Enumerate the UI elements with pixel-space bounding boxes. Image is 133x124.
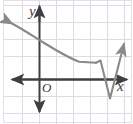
origin-label: O	[42, 81, 51, 94]
y-axis-label: y	[29, 4, 36, 19]
coordinate-plane-graph: y x O	[0, 0, 133, 124]
graph-canvas	[0, 0, 133, 124]
x-axis-label: x	[117, 79, 124, 94]
